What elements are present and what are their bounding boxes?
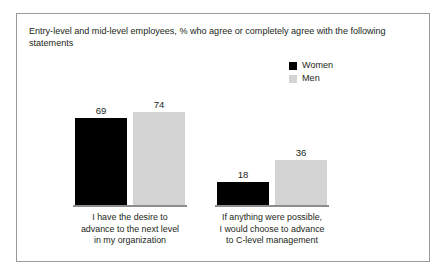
bar-value-label: 69 [75, 105, 127, 116]
bar-women: 18 [217, 182, 269, 205]
bar-value-label: 74 [133, 99, 185, 110]
bar-group: 69 74 I have the desire to advance to th… [65, 67, 195, 207]
category-label-line: to C-level management [193, 235, 351, 247]
bar-fill [75, 118, 127, 205]
bar-fill [217, 182, 269, 205]
group-baseline [73, 205, 187, 207]
bar-fill [133, 112, 185, 205]
group-baseline [215, 205, 329, 207]
category-label-line: advance to the next level [51, 224, 209, 236]
chart-figure: Entry-level and mid-level employees, % w… [16, 13, 430, 262]
bar-men: 36 [275, 160, 327, 205]
bar-fill [275, 160, 327, 205]
bar-group-bars: 69 74 [65, 72, 195, 207]
category-label-line: If anything were possible, [193, 212, 351, 224]
bar-value-label: 18 [217, 169, 269, 180]
bar-women: 69 [75, 118, 127, 205]
category-label-line: in my organization [51, 235, 209, 247]
plot-area: 69 74 I have the desire to advance to th… [17, 14, 429, 261]
category-label: I have the desire to advance to the next… [51, 212, 209, 247]
bar-group-bars: 18 36 [207, 72, 337, 207]
bar-men: 74 [133, 112, 185, 205]
category-label-line: I would choose to advance [193, 224, 351, 236]
bar-value-label: 36 [275, 147, 327, 158]
category-label-line: I have the desire to [51, 212, 209, 224]
category-label: If anything were possible, I would choos… [193, 212, 351, 247]
bar-group: 18 36 If anything were possible, I would… [207, 67, 337, 207]
